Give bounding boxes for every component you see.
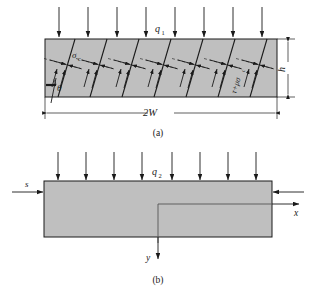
- x-axis-label: x: [293, 208, 299, 218]
- panel-a-load-arrows: [59, 7, 262, 37]
- q2-label-subscript: 2: [159, 172, 162, 179]
- h-label: h: [276, 67, 287, 72]
- panel-b-load-arrows: [58, 152, 256, 180]
- figure-container: q 1: [0, 0, 316, 293]
- s-label: s: [25, 179, 29, 189]
- sigma-c-label-subscript: c: [78, 56, 81, 62]
- panel-a-load-label: q 1: [155, 23, 165, 36]
- q2-label: q: [152, 166, 157, 177]
- panel-b-group: q 2 s x y (b): [12, 152, 304, 286]
- caption-a: (a): [153, 128, 164, 139]
- q1-label-subscript: 1: [162, 29, 165, 36]
- panel-a-group: q 1: [44, 7, 295, 139]
- q1-label: q: [155, 23, 160, 34]
- sigma-c-label: σ: [72, 50, 77, 60]
- panel-a-width-dimension: [45, 97, 277, 119]
- theta-label: θ: [57, 83, 62, 93]
- figure-svg: q 1: [0, 0, 316, 293]
- panel-b-load-label: q 2: [152, 166, 162, 179]
- y-axis-label: y: [145, 253, 151, 263]
- width-label: 2W: [143, 107, 158, 118]
- caption-b: (b): [152, 275, 163, 286]
